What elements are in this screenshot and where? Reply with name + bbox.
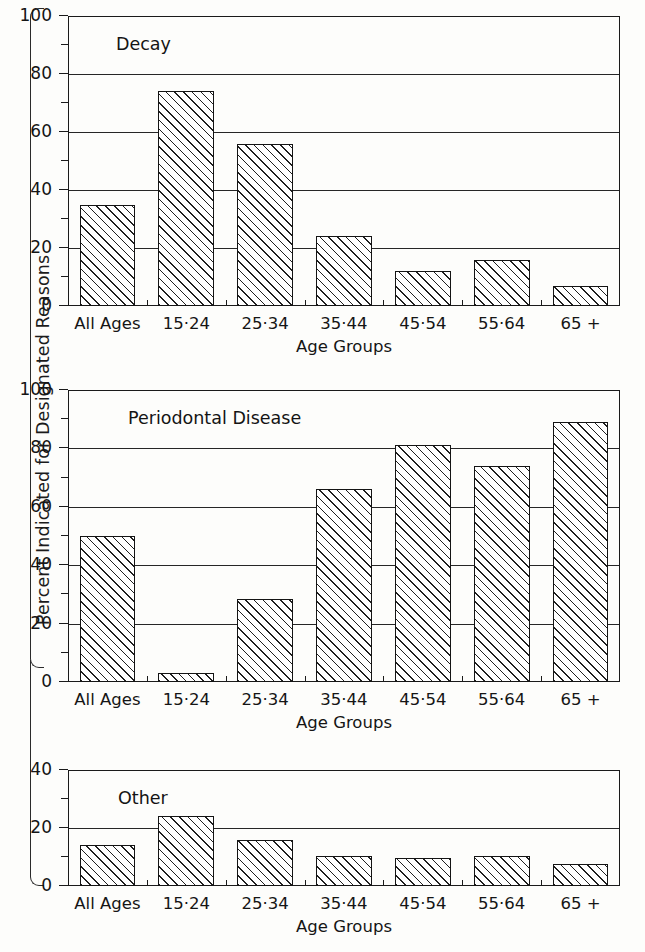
bar (80, 536, 136, 682)
y-axis-tick (59, 885, 68, 886)
x-axis-tick-label: 15·24 (147, 690, 226, 709)
y-axis-tick-label: 80 (2, 65, 52, 82)
y-axis-tick-label: 40 (2, 761, 52, 778)
y-axis-tick (59, 131, 68, 132)
y-axis-minor-tick (61, 535, 68, 536)
y-axis-tick (59, 389, 68, 390)
y-axis-tick (59, 506, 68, 507)
y-axis-tick (59, 73, 68, 74)
x-axis-tick (305, 880, 306, 886)
y-axis-tick (59, 769, 68, 770)
bar (553, 422, 609, 682)
x-axis-tick-label: All Ages (68, 894, 147, 913)
y-axis-minor-tick (61, 102, 68, 103)
bar (316, 489, 372, 682)
x-axis-tick (305, 676, 306, 682)
bar (237, 599, 293, 682)
y-axis-minor-tick (61, 160, 68, 161)
y-axis-tick-label: 100 (2, 7, 52, 24)
y-axis-tick-label: 0 (2, 673, 52, 690)
y-axis-label-group: Percent Indicated for Designated Reasons (0, 0, 44, 952)
x-axis-tick (226, 880, 227, 886)
y-axis-tick (59, 623, 68, 624)
y-axis-tick (59, 247, 68, 248)
bar (80, 845, 136, 886)
x-axis-tick-label: 65 + (541, 690, 620, 709)
bar (316, 856, 372, 886)
x-axis-tick (462, 300, 463, 306)
x-axis-tick-label: 25·34 (226, 690, 305, 709)
panel-title: Periodontal Disease (128, 408, 301, 428)
x-axis-tick-label: All Ages (68, 690, 147, 709)
y-axis-minor-tick (61, 44, 68, 45)
x-axis-tick-label: 35·44 (305, 314, 384, 333)
y-axis-tick-label: 0 (2, 297, 52, 314)
bar (395, 858, 451, 886)
x-axis-tick (147, 676, 148, 682)
bar (395, 445, 451, 682)
y-axis-tick (59, 447, 68, 448)
x-axis-tick (383, 676, 384, 682)
x-axis-tick-label: 25·34 (226, 894, 305, 913)
y-axis-tick-label: 20 (2, 819, 52, 836)
y-axis-tick-label: 0 (2, 877, 52, 894)
x-axis-tick (462, 676, 463, 682)
x-axis-label: Age Groups (68, 713, 620, 732)
x-axis-tick-label: 55·64 (462, 690, 541, 709)
bar (474, 466, 530, 682)
y-axis-minor-tick (61, 218, 68, 219)
x-axis-tick (462, 880, 463, 886)
bar (553, 286, 609, 306)
x-axis-tick-label: 55·64 (462, 894, 541, 913)
x-axis-tick-label: 15·24 (147, 314, 226, 333)
x-axis-tick-label: 65 + (541, 894, 620, 913)
y-axis-tick-label: 40 (2, 181, 52, 198)
y-axis-tick-label: 80 (2, 439, 52, 456)
y-axis-tick-label: 20 (2, 615, 52, 632)
y-axis-tick (59, 305, 68, 306)
gridline (69, 828, 619, 829)
y-axis-minor-tick (61, 652, 68, 653)
y-axis-tick (59, 681, 68, 682)
x-axis-label: Age Groups (68, 337, 620, 356)
y-axis-tick (59, 189, 68, 190)
y-axis-minor-tick (61, 593, 68, 594)
y-axis-minor-tick (61, 856, 68, 857)
x-axis-tick (226, 300, 227, 306)
gridline (69, 448, 619, 449)
gridline (69, 74, 619, 75)
y-axis-minor-tick (61, 477, 68, 478)
x-axis-tick (541, 676, 542, 682)
x-axis-tick-label: 55·64 (462, 314, 541, 333)
y-axis-tick (59, 15, 68, 16)
bar (553, 864, 609, 886)
x-axis-tick-label: 35·44 (305, 690, 384, 709)
x-axis-tick (147, 880, 148, 886)
figure-root: Percent Indicated for Designated Reasons… (0, 0, 645, 952)
bar (80, 205, 136, 307)
x-axis-tick (383, 300, 384, 306)
bar (158, 673, 214, 682)
y-axis-tick-label: 40 (2, 556, 52, 573)
y-axis-tick-label: 100 (2, 381, 52, 398)
y-axis-tick-label: 60 (2, 498, 52, 515)
gridline (69, 190, 619, 191)
gridline (69, 132, 619, 133)
bar (474, 260, 530, 306)
bar (316, 236, 372, 306)
panel-title: Other (118, 788, 168, 808)
bar (474, 856, 530, 886)
x-axis-tick-label: 65 + (541, 314, 620, 333)
x-axis-tick-label: 25·34 (226, 314, 305, 333)
y-axis-minor-tick (61, 418, 68, 419)
x-axis-label: Age Groups (68, 917, 620, 936)
x-axis-tick (305, 300, 306, 306)
y-axis-tick (59, 827, 68, 828)
x-axis-tick-label: All Ages (68, 314, 147, 333)
y-axis-minor-tick (61, 276, 68, 277)
y-axis-tick-label: 20 (2, 239, 52, 256)
x-axis-tick-label: 35·44 (305, 894, 384, 913)
x-axis-tick (147, 300, 148, 306)
y-axis-minor-tick (61, 798, 68, 799)
x-axis-tick-label: 45·54 (383, 314, 462, 333)
